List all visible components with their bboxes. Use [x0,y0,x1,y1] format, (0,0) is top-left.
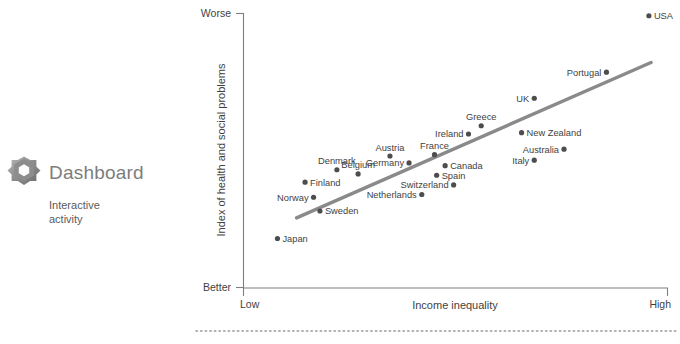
data-point-label: Belgium [341,160,375,170]
data-point[interactable]: Spain [434,171,465,181]
data-point-label: Greece [466,112,497,122]
data-point-dot[interactable] [434,173,439,178]
data-point[interactable]: Australia [523,145,567,155]
y-tick-better: Better [203,281,232,293]
data-point-label: New Zealand [527,128,582,138]
data-point[interactable]: Norway [277,193,316,203]
y-tick-worse: Worse [201,7,231,19]
data-point-label: Italy [512,156,529,166]
data-point-label: Finland [310,178,341,188]
data-point-dot[interactable] [561,147,566,152]
data-point[interactable]: Portugal [567,68,609,78]
data-point-dot[interactable] [302,180,307,185]
chart-canvas: Worse Better Low High Income inequality … [0,0,680,344]
data-point[interactable]: Netherlands [367,190,425,200]
data-point-label: Sweden [325,206,359,216]
data-point[interactable]: Canada [443,161,484,171]
data-point-dot[interactable] [406,160,411,165]
data-point-dot[interactable] [532,158,537,163]
data-point-label: Norway [277,193,309,203]
data-point[interactable]: Ireland [435,129,471,139]
data-points: USAPortugalUKGreeceIrelandNew ZealandAus… [275,11,674,244]
data-point-dot[interactable] [519,130,524,135]
data-point[interactable]: Italy [512,156,537,166]
data-point-dot[interactable] [275,236,280,241]
data-point-label: Netherlands [367,190,417,200]
data-point-dot[interactable] [479,123,484,128]
data-point[interactable]: Japan [275,234,308,244]
trend-line [297,63,651,218]
data-point[interactable]: New Zealand [519,128,581,138]
data-point-dot[interactable] [451,182,456,187]
axes [236,13,668,296]
data-point-dot[interactable] [443,163,448,168]
data-point[interactable]: Greece [466,112,497,128]
data-point[interactable]: UK [516,94,537,104]
data-point-label: Austria [375,143,405,153]
x-axis-title: Income inequality [412,299,498,311]
trend-line-segment [297,63,651,218]
data-point-label: USA [654,11,674,21]
x-tick-low: Low [240,298,260,310]
data-point-label: Canada [450,161,483,171]
y-axis-title: Index of health and social problems [215,63,227,237]
data-point-dot[interactable] [432,152,437,157]
data-point-dot[interactable] [317,208,322,213]
data-point-dot[interactable] [334,167,339,172]
data-point[interactable]: Finland [302,178,340,188]
data-point-dot[interactable] [532,96,537,101]
data-point-dot[interactable] [419,192,424,197]
data-point-label: Switzerland [401,180,449,190]
data-point-dot[interactable] [466,131,471,136]
data-point-label: Japan [282,234,307,244]
data-point-dot[interactable] [646,13,651,18]
data-point[interactable]: Austria [375,143,405,159]
data-point-label: Spain [442,171,466,181]
data-point-dot[interactable] [604,70,609,75]
data-point-dot[interactable] [356,171,361,176]
data-point-dot[interactable] [311,195,316,200]
x-tick-high: High [649,298,671,310]
caption-strip [196,337,676,344]
data-point-label: Ireland [435,129,463,139]
data-point-label: France [420,141,449,151]
data-point-label: UK [516,94,530,104]
data-point-label: Australia [523,145,560,155]
scatter-chart: Worse Better Low High Income inequality … [0,0,680,344]
data-point-label: Portugal [567,68,602,78]
data-point[interactable]: Belgium [341,160,375,176]
data-point[interactable]: USA [646,11,674,21]
data-point[interactable]: Switzerland [401,180,457,190]
